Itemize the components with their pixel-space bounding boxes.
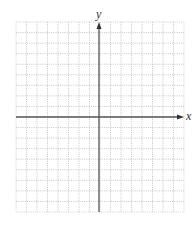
y-axis-label: y	[96, 8, 101, 20]
x-axis-arrow-icon	[177, 115, 184, 120]
x-axis-label: x	[186, 110, 191, 122]
grid-graph	[0, 0, 196, 231]
coordinate-plane: y x	[0, 0, 196, 231]
y-axis-arrow-icon	[97, 22, 102, 29]
